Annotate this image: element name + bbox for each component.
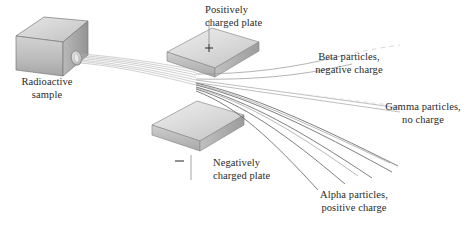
negative-plate-label: Negatively charged plate [213, 157, 309, 182]
gamma-beam [196, 80, 400, 112]
radioactivity-deflection-figure: Radioactive sample Positively charged pl… [0, 0, 471, 230]
radioactive-sample-label: Radioactive sample [4, 76, 90, 101]
positive-plate-label: Positively charged plate [205, 4, 297, 29]
beta-particles-label: Beta particles, negative charge [297, 51, 401, 76]
radioactive-sample-block [16, 17, 88, 76]
alpha-particles-label: Alpha particles, positive charge [303, 189, 405, 214]
gamma-particles-label: Gamma particles, no charge [375, 101, 471, 126]
